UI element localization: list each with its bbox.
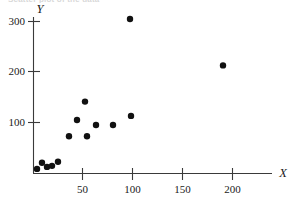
x-tick-label-200: 200 — [224, 183, 241, 195]
data-point — [39, 160, 45, 166]
plot-canvas: 300 200 100 50 100 150 200 X Y — [0, 0, 296, 208]
data-point — [128, 113, 134, 119]
data-point — [127, 16, 133, 22]
y-axis-tick-labels: 300 200 100 — [9, 15, 26, 128]
data-point — [220, 62, 226, 68]
y-axis-label: Y — [37, 2, 46, 16]
x-tick-label-150: 150 — [174, 183, 191, 195]
data-point — [66, 133, 72, 139]
data-point — [110, 122, 116, 128]
x-axis-tick-labels: 50 100 150 200 — [77, 183, 241, 195]
y-tick-label-100: 100 — [9, 116, 26, 128]
data-point — [93, 122, 99, 128]
x-axis-label: X — [278, 166, 288, 180]
y-tick-label-300: 300 — [9, 15, 26, 27]
data-point — [74, 117, 80, 123]
data-point — [84, 133, 90, 139]
scatter-plot-figure: Scatter plot of the data 300 200 100 50 — [0, 0, 296, 208]
data-point — [82, 98, 88, 104]
data-point — [49, 163, 55, 169]
x-tick-label-50: 50 — [77, 183, 89, 195]
data-point — [34, 166, 40, 172]
data-point — [55, 159, 61, 165]
x-tick-label-100: 100 — [124, 183, 141, 195]
y-tick-label-200: 200 — [9, 65, 26, 77]
data-points-layer — [34, 16, 226, 172]
